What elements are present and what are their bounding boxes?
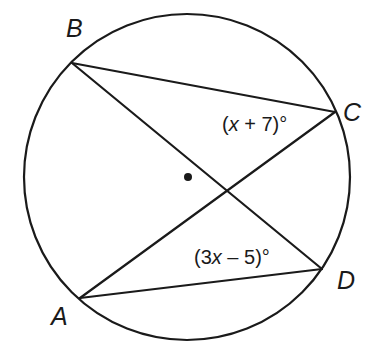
- point-label-b: B: [66, 14, 83, 42]
- angle-label-d: (3x – 5)°: [194, 246, 270, 268]
- angle-label-c: (x + 7)°: [222, 113, 287, 135]
- segment-bc: [72, 63, 335, 112]
- point-label-c: C: [343, 98, 362, 126]
- segment-ac: [80, 112, 335, 298]
- segment-ad: [80, 269, 322, 298]
- point-label-a: A: [49, 302, 68, 330]
- segment-bd: [72, 63, 322, 269]
- point-label-d: D: [337, 266, 355, 294]
- center-dot: [184, 173, 192, 181]
- inscribed-angles-diagram: B C D A (x + 7)° (3x – 5)°: [0, 0, 389, 351]
